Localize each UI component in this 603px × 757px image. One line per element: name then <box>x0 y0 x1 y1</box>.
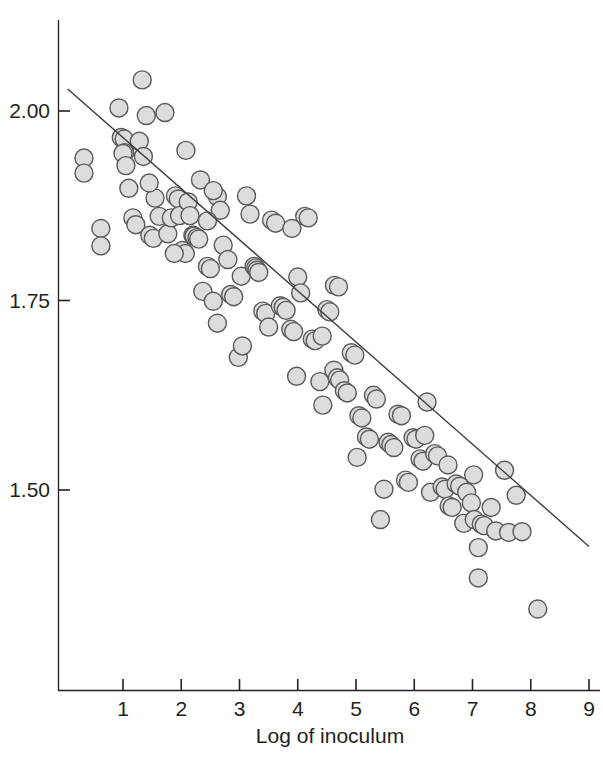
data-point <box>181 207 199 225</box>
data-point <box>267 214 285 232</box>
data-point <box>260 318 278 336</box>
data-point <box>367 390 385 408</box>
data-point <box>313 327 331 345</box>
data-point <box>190 230 208 248</box>
data-point <box>529 600 547 618</box>
data-point <box>156 104 174 122</box>
data-point <box>159 225 177 243</box>
x-tick-label: 2 <box>175 697 187 720</box>
x-tick-label: 9 <box>583 697 595 720</box>
data-point <box>462 494 480 512</box>
data-point <box>416 426 434 444</box>
data-point <box>198 212 216 230</box>
y-tick-label: 2.00 <box>9 99 50 122</box>
data-point <box>241 205 259 223</box>
data-point <box>120 179 138 197</box>
x-axis-title: Log of inoculum <box>256 724 404 747</box>
data-point <box>283 219 301 237</box>
y-tick-label: 1.50 <box>9 478 50 501</box>
data-point <box>371 511 389 529</box>
data-point <box>140 174 158 192</box>
data-point <box>465 466 483 484</box>
data-point <box>233 337 251 355</box>
data-point <box>496 461 514 479</box>
data-point <box>353 409 371 427</box>
data-point <box>201 260 219 278</box>
data-point <box>92 237 110 255</box>
data-point <box>219 251 237 269</box>
data-point <box>375 480 393 498</box>
x-tick-label: 5 <box>350 697 362 720</box>
data-point <box>348 448 366 466</box>
data-point <box>360 430 378 448</box>
data-point <box>418 393 436 411</box>
y-tick-label: 1.75 <box>9 289 50 312</box>
data-point <box>469 569 487 587</box>
data-point <box>110 99 128 117</box>
data-point <box>288 367 306 385</box>
data-point <box>299 209 317 227</box>
x-tick-label: 6 <box>408 697 420 720</box>
x-tick-label: 7 <box>467 697 479 720</box>
data-point <box>314 396 332 414</box>
data-point <box>346 346 364 364</box>
data-point <box>250 263 268 281</box>
data-point <box>385 439 403 457</box>
data-point <box>75 164 93 182</box>
data-point <box>177 141 195 159</box>
data-point <box>92 219 110 237</box>
data-point <box>482 498 500 516</box>
data-point <box>439 456 457 474</box>
scatter-plot-figure: 1.501.752.00 123456789 Log of inoculum <box>0 0 603 757</box>
x-tick-label: 1 <box>117 697 129 720</box>
x-tick-label: 4 <box>292 697 304 720</box>
x-tick-label: 8 <box>525 697 537 720</box>
x-tick-label: 3 <box>234 697 246 720</box>
data-point <box>392 407 410 425</box>
data-point <box>133 71 151 89</box>
data-point <box>117 157 135 175</box>
data-point <box>225 288 243 306</box>
data-point <box>443 498 461 516</box>
data-point <box>165 245 183 263</box>
data-point <box>204 182 222 200</box>
data-point <box>289 268 307 286</box>
data-point <box>137 107 155 125</box>
data-point <box>204 292 222 310</box>
data-point <box>513 523 531 541</box>
data-point <box>399 473 417 491</box>
data-point <box>285 323 303 341</box>
data-point <box>338 384 356 402</box>
data-point <box>237 187 255 205</box>
data-point <box>469 539 487 557</box>
data-point <box>208 314 226 332</box>
data-point <box>277 301 295 319</box>
data-point <box>330 278 348 296</box>
